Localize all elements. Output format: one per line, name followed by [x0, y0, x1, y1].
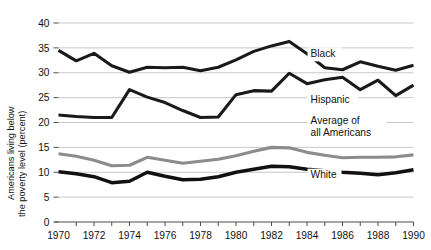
series-lines-group — [59, 41, 414, 182]
y-tick-label-25: 25 — [38, 92, 50, 103]
y-tick-label-5: 5 — [44, 192, 50, 203]
y-axis-title-line2: the poverty level (percent) — [17, 111, 27, 217]
x-tick-labels-group: 1970197219741976197819801982198419861988… — [47, 230, 425, 241]
x-tick-label-1970: 1970 — [47, 230, 70, 241]
y-tick-labels-group: 0510152025303540 — [38, 18, 50, 228]
series-label-hispanic: Hispanic — [311, 94, 350, 105]
x-tick-label-1974: 1974 — [118, 230, 141, 241]
y-tick-label-30: 30 — [38, 67, 50, 78]
y-axis-title: Americans living below the poverty level… — [6, 106, 27, 217]
y-tick-label-20: 20 — [38, 117, 50, 128]
poverty-line-chart: 0510152025303540 19701972197419761978198… — [0, 0, 431, 250]
series-label-black: Black — [311, 48, 337, 59]
x-tick-label-1990: 1990 — [402, 230, 425, 241]
y-tick-label-0: 0 — [44, 217, 50, 228]
series-line-hispanic — [59, 73, 414, 117]
series-label-average-of-all-americans: Average of — [311, 115, 360, 126]
x-tick-label-1978: 1978 — [189, 230, 212, 241]
y-tick-label-10: 10 — [38, 167, 50, 178]
x-tick-label-1984: 1984 — [296, 230, 319, 241]
x-tick-label-1972: 1972 — [83, 230, 106, 241]
x-tick-label-1988: 1988 — [367, 230, 390, 241]
series-line-white — [59, 166, 414, 182]
chart-canvas: 0510152025303540 19701972197419761978198… — [0, 0, 431, 250]
y-tick-label-35: 35 — [38, 43, 50, 54]
series-label-average-of-all-americans: all Americans — [311, 127, 372, 138]
series-line-black — [59, 41, 414, 72]
x-tick-label-1976: 1976 — [154, 230, 177, 241]
series-label-white: White — [311, 169, 337, 180]
x-tick-label-1980: 1980 — [225, 230, 248, 241]
x-tick-label-1986: 1986 — [331, 230, 354, 241]
y-tick-label-40: 40 — [38, 18, 50, 29]
y-axis-title-line1: Americans living below — [6, 106, 16, 200]
y-tick-label-15: 15 — [38, 142, 50, 153]
series-line-average-of-all-americans — [59, 147, 414, 165]
x-tick-label-1982: 1982 — [260, 230, 283, 241]
